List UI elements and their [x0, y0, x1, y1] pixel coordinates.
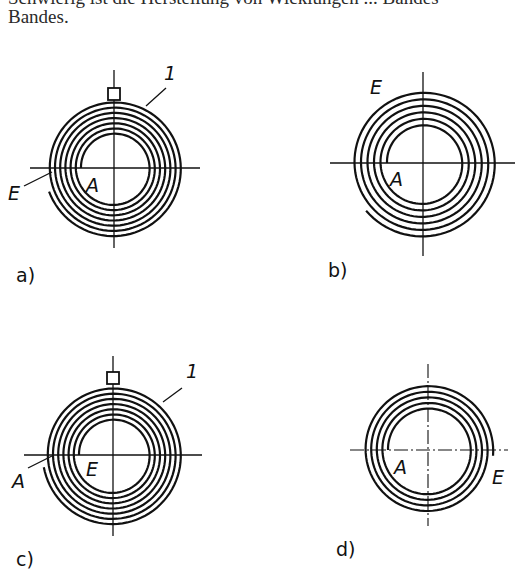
diagram-b: E A b) — [328, 72, 515, 281]
end-label-d: E — [492, 466, 504, 488]
spring-coils-a — [49, 103, 181, 237]
mounting-tab-a — [108, 88, 120, 100]
part-leader-c — [163, 388, 182, 402]
caption-c: c) — [16, 548, 34, 570]
spring-coils-b — [355, 93, 495, 236]
end-label-b: E — [370, 76, 382, 98]
spring-coils-d — [366, 386, 494, 511]
diagram-a: 1 E A a) — [8, 62, 200, 286]
spiral-spring-figure: 1 E A a) E A b) 1 A E c) A E d) — [0, 0, 518, 572]
start-label-a: A — [84, 174, 99, 196]
part-label-a: 1 — [164, 62, 176, 84]
spring-strip — [366, 386, 494, 511]
spring-coils-c — [44, 389, 181, 525]
spring-strip — [355, 93, 495, 236]
start-label-b: A — [388, 168, 403, 190]
part-leader-a — [146, 88, 166, 106]
end-label-c: E — [86, 458, 98, 480]
end-leader-a — [24, 172, 52, 186]
spring-strip — [44, 389, 181, 525]
part-label-c: 1 — [186, 360, 198, 382]
end-label-a: E — [8, 182, 20, 204]
start-label-d: A — [392, 456, 407, 478]
caption-b: b) — [328, 259, 347, 281]
caption-d: d) — [336, 538, 355, 560]
spring-strip — [49, 103, 181, 237]
diagram-d: A E d) — [336, 364, 508, 560]
start-label-c: A — [10, 470, 25, 492]
diagram-c: 1 A E c) — [10, 356, 202, 570]
mounting-tab-c — [107, 372, 119, 384]
caption-a: a) — [16, 264, 35, 286]
